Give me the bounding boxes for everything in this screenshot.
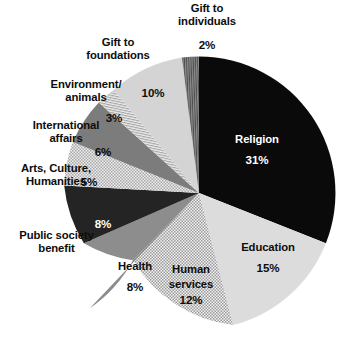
value-gift-to-individuals: 2%: [170, 38, 244, 51]
value-public-society-benefit light: 8%: [83, 217, 123, 230]
label-gift-to-individuals: Gift to individuals: [148, 2, 266, 29]
label-human-services: Humanservices: [159, 262, 223, 291]
label-religion: Religion: [215, 132, 299, 147]
value-health: 8%: [106, 280, 164, 293]
value-human-services: 12%: [159, 293, 223, 306]
value-gift-to-foundations: 10%: [131, 86, 175, 99]
pie-chart: Gift to individuals 2% Gift to foundatio…: [0, 0, 341, 352]
value-environment-animals: 3%: [94, 111, 134, 124]
label-human-services-line1: Human: [172, 263, 210, 275]
label-gift-to-foundations: Gift to foundations: [63, 36, 173, 63]
label-education: Education: [222, 240, 314, 255]
value-religion: 31%: [215, 153, 299, 166]
label-health: Health: [106, 259, 164, 274]
value-arts-culture-humanities: 5%: [69, 175, 109, 188]
label-environment-animals: Environment/ animals: [27, 78, 145, 105]
label-public-society-benefit: Public society benefit: [0, 229, 113, 256]
label-human-services-line2: services: [169, 278, 213, 290]
value-international-affairs: 6%: [83, 145, 123, 158]
value-education: 15%: [222, 261, 314, 274]
